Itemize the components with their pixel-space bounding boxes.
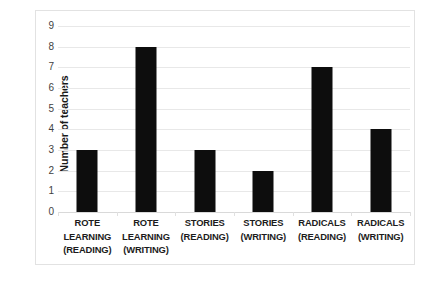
y-axis-tick-label: 6: [38, 83, 54, 93]
bar: [370, 129, 391, 212]
bar: [253, 171, 274, 212]
y-axis-tick-labels: 0123456789: [36, 26, 54, 212]
x-axis-label: RADICALS(WRITING): [351, 216, 410, 243]
y-axis-tick-label: 1: [38, 186, 54, 196]
x-axis-label-line: LEARNING: [58, 230, 117, 244]
x-axis-label-line: LEARNING: [117, 230, 176, 244]
bar: [194, 150, 215, 212]
x-axis-label-line: ROTE: [58, 216, 117, 230]
y-axis-tick-label: 4: [38, 124, 54, 134]
x-axis-label-line: (READING): [175, 230, 234, 244]
x-axis-label: STORIES(READING): [175, 216, 234, 243]
x-axis-label-line: (WRITING): [351, 230, 410, 244]
category-tick: [410, 212, 411, 216]
y-axis-tick-label: 0: [38, 207, 54, 217]
x-axis-label-line: STORIES: [234, 216, 293, 230]
x-axis-label-line: RADICALS: [351, 216, 410, 230]
y-axis-tick-label: 2: [38, 166, 54, 176]
x-axis-label-line: STORIES: [175, 216, 234, 230]
y-axis-tick-label: 8: [38, 42, 54, 52]
x-axis-category-labels: ROTELEARNING(READING)ROTELEARNING(WRITIN…: [58, 216, 410, 262]
bar: [311, 67, 332, 212]
y-axis-tick-label: 5: [38, 104, 54, 114]
chart-screenshot: Number of teachers 0123456789 ROTELEARNI…: [0, 0, 439, 284]
x-axis-label-line: (READING): [58, 243, 117, 257]
bar-slot: [351, 26, 410, 212]
x-axis-label: RADICALS(READING): [293, 216, 352, 243]
x-axis-label: STORIES(WRITING): [234, 216, 293, 243]
y-axis-tick-label: 3: [38, 145, 54, 155]
x-axis-label-line: ROTE: [117, 216, 176, 230]
bar-slot: [175, 26, 234, 212]
x-axis-label-line: (READING): [293, 230, 352, 244]
y-axis-tick-label: 7: [38, 62, 54, 72]
x-axis-label-line: RADICALS: [293, 216, 352, 230]
y-axis-tick-label: 9: [38, 21, 54, 31]
chart-frame: Number of teachers 0123456789 ROTELEARNI…: [35, 10, 415, 265]
plot-area: [58, 26, 410, 212]
bar-slot: [117, 26, 176, 212]
x-axis-label-line: (WRITING): [234, 230, 293, 244]
x-axis-label-line: (WRITING): [117, 243, 176, 257]
bar: [77, 150, 98, 212]
bar-slot: [293, 26, 352, 212]
x-axis-label: ROTELEARNING(READING): [58, 216, 117, 257]
x-axis-label: ROTELEARNING(WRITING): [117, 216, 176, 257]
bar-slot: [58, 26, 117, 212]
bar: [135, 47, 156, 212]
bar-slot: [234, 26, 293, 212]
